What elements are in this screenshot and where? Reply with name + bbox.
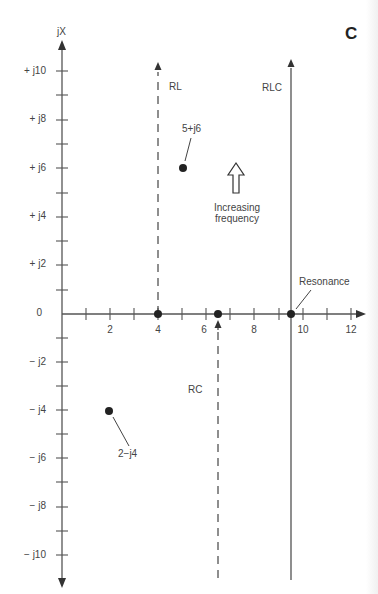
point-2-minus-j4 bbox=[105, 407, 113, 415]
y-tick-label-plus-j8: + j8 bbox=[2, 114, 46, 124]
x-tick-label-6: 6 bbox=[194, 325, 214, 335]
point-2-minus-j4-leader bbox=[113, 417, 129, 446]
increasing-frequency-arrow-icon bbox=[228, 163, 244, 193]
resonance-point bbox=[287, 310, 295, 318]
point-2-minus-j4-label: 2−j4 bbox=[118, 449, 137, 459]
rl-arrow-up-icon bbox=[155, 62, 162, 70]
y-tick-label-plus-j10: + j10 bbox=[2, 66, 46, 76]
y-tick-label-minus-j4: − j4 bbox=[2, 405, 46, 415]
y-tick-label-zero: 0 bbox=[0, 308, 42, 318]
increasing-frequency-label-line2: frequency bbox=[215, 214, 259, 224]
rc-axis-point bbox=[214, 310, 222, 318]
y-axis-arrow-down-icon bbox=[58, 578, 66, 588]
panel-label: C bbox=[345, 24, 357, 44]
y-tick-label-minus-j10: − j10 bbox=[2, 550, 46, 560]
x-tick-label-4: 4 bbox=[148, 325, 168, 335]
y-axis-arrow-up-icon bbox=[58, 40, 66, 50]
x-tick-label-2: 2 bbox=[100, 325, 120, 335]
rlc-label: RLC bbox=[262, 83, 282, 93]
x-tick-label-10: 10 bbox=[293, 325, 313, 335]
page-edge-shadow bbox=[366, 0, 378, 594]
point-5-plus-j6 bbox=[179, 164, 187, 172]
y-tick-label-plus-j2: + j2 bbox=[2, 259, 46, 269]
point-5-plus-j6-leader bbox=[185, 138, 191, 161]
rl-axis-point bbox=[154, 310, 162, 318]
resonance-leader bbox=[296, 290, 311, 309]
y-axis-label: jX bbox=[57, 27, 66, 37]
x-tick-label-8: 8 bbox=[244, 325, 264, 335]
impedance-plane-diagram bbox=[0, 0, 378, 594]
rl-label: RL bbox=[169, 82, 182, 92]
y-tick-label-plus-j6: + j6 bbox=[2, 163, 46, 173]
x-axis-arrow-right-icon bbox=[356, 310, 366, 318]
increasing-frequency-label-line1: Increasing bbox=[214, 203, 260, 213]
y-tick-label-minus-j6: − j6 bbox=[2, 453, 46, 463]
point-5-plus-j6-label: 5+j6 bbox=[182, 124, 201, 134]
rc-label: RC bbox=[188, 385, 202, 395]
rlc-arrow-up-icon bbox=[288, 59, 295, 67]
y-tick-label-minus-j2: − j2 bbox=[2, 357, 46, 367]
rc-arrow-up-icon bbox=[215, 320, 222, 328]
x-tick-label-12: 12 bbox=[341, 325, 361, 335]
y-tick-label-plus-j4: + j4 bbox=[2, 211, 46, 221]
y-tick-label-minus-j8: − j8 bbox=[2, 501, 46, 511]
resonance-label: Resonance bbox=[299, 277, 350, 287]
